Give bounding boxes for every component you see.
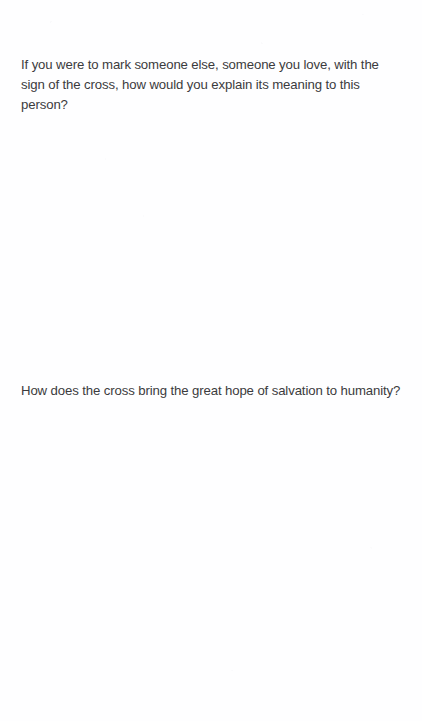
document-page: If you were to mark someone else, someon…	[0, 0, 422, 721]
reflection-question-2: How does the cross bring the great hope …	[21, 381, 401, 401]
reflection-question-1: If you were to mark someone else, someon…	[21, 55, 401, 115]
